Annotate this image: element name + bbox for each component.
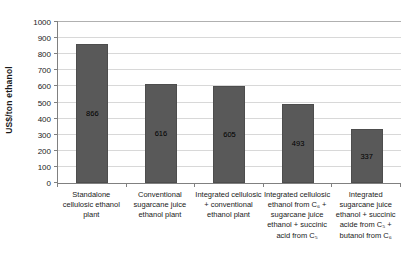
y-tick-label: 700 xyxy=(38,66,51,75)
y-tick-label: 0 xyxy=(47,179,51,188)
y-tick-label: 500 xyxy=(38,98,51,107)
bar: 866 xyxy=(76,44,108,183)
bar-chart-figure: US$/ton ethanol 010020030040050060070080… xyxy=(0,0,407,260)
y-axis-title: US$/ton ethanol xyxy=(4,45,14,155)
bar: 493 xyxy=(282,104,314,183)
bar-slot: 866 xyxy=(58,22,127,183)
bar: 337 xyxy=(351,129,383,183)
x-axis-labels: Standalone cellulosic ethanol plantConve… xyxy=(57,190,400,241)
y-tick-label: 400 xyxy=(38,114,51,123)
bar-value-label: 605 xyxy=(223,130,236,139)
y-tick-label: 900 xyxy=(38,34,51,43)
x-category-label: Integrated cellulosic + conventional eth… xyxy=(194,190,263,241)
bar-slot: 616 xyxy=(127,22,196,183)
x-tick-mark xyxy=(194,183,195,187)
x-tick-mark xyxy=(57,183,58,187)
bar-value-label: 616 xyxy=(155,129,168,138)
bar-value-label: 493 xyxy=(292,139,305,148)
x-category-label: Integrated sugarcane juice ethanol + suc… xyxy=(331,190,400,241)
x-tick-mark xyxy=(400,183,401,187)
x-category-label: Conventional sugarcane juice ethanol pla… xyxy=(126,190,195,241)
bars-container: 866616605493337 xyxy=(58,22,401,183)
x-category-label: Standalone cellulosic ethanol plant xyxy=(57,190,126,241)
x-tick-mark xyxy=(263,183,264,187)
bar: 616 xyxy=(145,84,177,183)
y-tick-label: 1000 xyxy=(33,18,51,27)
y-tick-label: 600 xyxy=(38,82,51,91)
x-category-label: Integrated cellulosic ethanol from C₆ + … xyxy=(263,190,332,241)
bar-value-label: 337 xyxy=(360,151,373,160)
y-tick-label: 200 xyxy=(38,146,51,155)
y-tick-label: 800 xyxy=(38,50,51,59)
bar-slot: 493 xyxy=(264,22,333,183)
bar-slot: 337 xyxy=(332,22,401,183)
x-tick-mark xyxy=(331,183,332,187)
plot-area: 0100200300400500600700800900100086661660… xyxy=(57,22,401,184)
y-tick-label: 100 xyxy=(38,162,51,171)
bar-value-label: 866 xyxy=(86,109,99,118)
y-tick-label: 300 xyxy=(38,130,51,139)
bar: 605 xyxy=(213,86,245,183)
x-tick-mark xyxy=(126,183,127,187)
bar-slot: 605 xyxy=(195,22,264,183)
